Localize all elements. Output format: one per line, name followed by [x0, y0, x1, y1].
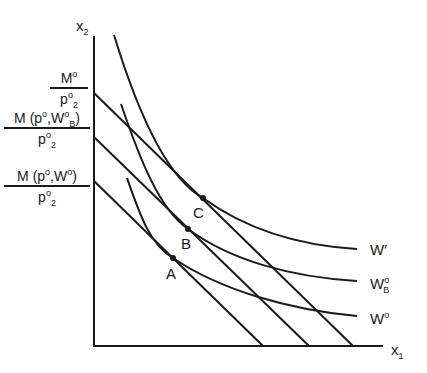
intercept-label-M0: Mo po2	[50, 70, 88, 107]
point-label-B: B	[181, 236, 191, 251]
point-label-A: A	[166, 266, 176, 281]
indifference-curve-W-B	[121, 104, 357, 281]
curve-label-W-B: WoB	[370, 276, 389, 291]
point-B-marker	[185, 226, 191, 232]
point-A-marker	[170, 255, 176, 261]
indifference-curve-W-prime	[114, 35, 357, 249]
curve-label-W-0: Wo	[370, 311, 389, 326]
y-axis-label: x2	[76, 18, 89, 33]
budget-line-MW0	[94, 181, 263, 346]
intercept-label-M-p0-WB0: M (po,WoB) po2	[4, 110, 90, 147]
x-axis-label: x1	[391, 342, 404, 357]
intercept-label-M-p0-W0: M (po,Wo) po2	[4, 168, 90, 205]
point-label-C: C	[193, 205, 204, 220]
budget-line-MWB	[94, 137, 309, 346]
point-C-marker	[200, 195, 206, 201]
curve-label-W-prime: W′	[370, 242, 387, 257]
